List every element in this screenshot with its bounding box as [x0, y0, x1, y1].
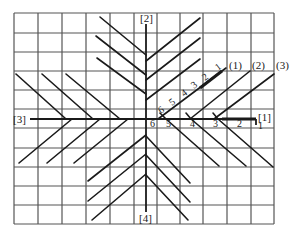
lower-right-strokes [146, 136, 190, 220]
axis-number-5: 5 [166, 118, 171, 129]
axis-label-left: [3] [13, 113, 26, 125]
series-line-2 [190, 71, 250, 119]
series-label-2: (2) [252, 59, 265, 72]
left-lower-strokes [19, 119, 128, 163]
left-upper-strokes [16, 74, 120, 119]
axis-number-6: 6 [150, 118, 155, 129]
right-lower-strokes [166, 119, 273, 167]
axis-label-bottom: [4] [139, 212, 152, 224]
upper-left-strokes [96, 17, 146, 94]
herringbone-diagram: [2] [4] [3] [1] (1) (2) (3) 1 2 3 4 5 6 … [0, 0, 298, 235]
series-label-1: (1) [229, 59, 242, 72]
axis-number-2: 2 [237, 118, 242, 129]
axis-number-1: 1 [258, 120, 263, 131]
axis-number-3: 3 [213, 118, 218, 129]
axis-label-top: [2] [140, 12, 153, 24]
axis-number-4: 4 [190, 118, 195, 129]
series-lines [158, 68, 274, 119]
series-label-3: (3) [276, 59, 289, 72]
